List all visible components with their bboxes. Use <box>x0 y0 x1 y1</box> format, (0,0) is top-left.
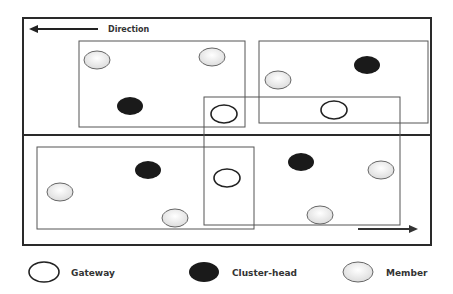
member-node <box>368 161 394 179</box>
member-node <box>199 48 225 66</box>
direction-arrow-right-icon <box>358 225 418 233</box>
legend-member-icon <box>343 262 373 282</box>
cluster-head-node <box>117 97 143 115</box>
cluster-head-node <box>135 161 161 179</box>
member-node <box>47 183 73 201</box>
member-node <box>84 51 110 69</box>
cluster-head-node <box>288 153 314 171</box>
direction-label: Direction <box>108 25 150 34</box>
gateway-node <box>211 105 237 123</box>
direction-arrow-left-icon <box>29 25 98 33</box>
gateway-node <box>214 169 240 187</box>
legend: Gateway Cluster-head Member <box>29 262 428 282</box>
cluster-diagram: Direction Gateway Cluster-head Member <box>0 0 453 294</box>
member-node <box>307 206 333 224</box>
member-node <box>162 209 188 227</box>
legend-gateway-label: Gateway <box>71 268 115 278</box>
legend-cluster-head-label: Cluster-head <box>232 268 297 278</box>
member-node <box>265 71 291 89</box>
legend-gateway-icon <box>29 262 59 282</box>
legend-cluster-head-icon <box>189 262 219 282</box>
legend-member-label: Member <box>386 268 428 278</box>
outer-boundary <box>23 18 431 245</box>
gateway-node <box>321 101 347 119</box>
cluster-head-node <box>354 56 380 74</box>
